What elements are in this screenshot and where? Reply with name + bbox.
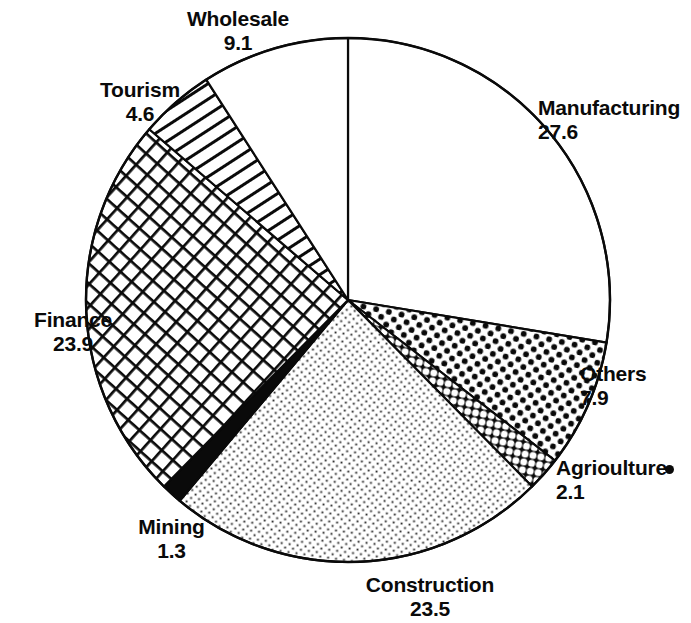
- slice-label-finance-name: Finance: [0, 308, 148, 332]
- slice-label-construction-value: 23.5: [330, 597, 530, 621]
- slice-label-finance-value: 23.9: [0, 332, 148, 356]
- slice-label-wholesale-value: 9.1: [143, 31, 333, 55]
- slice-label-manufacturing-name: Manufacturing: [538, 96, 691, 120]
- slice-label-others-name: Others: [580, 362, 691, 386]
- pie-chart: Wholesale 9.1 Tourism 4.6 Finance 23.9 M…: [0, 0, 691, 623]
- slice-label-wholesale: Wholesale 9.1: [143, 7, 333, 54]
- slice-label-construction: Construction 23.5: [330, 573, 530, 620]
- slice-label-tourism-value: 4.6: [55, 102, 225, 126]
- pie-slice-manufacturing: [348, 38, 610, 343]
- scan-ink-blot-icon: [665, 465, 674, 474]
- slice-label-wholesale-name: Wholesale: [143, 7, 333, 31]
- slice-label-finance: Finance 23.9: [0, 308, 148, 355]
- slice-label-tourism-name: Tourism: [55, 78, 225, 102]
- slice-label-others: Others 7.9: [580, 362, 691, 409]
- slice-label-mining-value: 1.3: [94, 539, 249, 563]
- slice-label-agriculture-value: 2.1: [556, 480, 691, 504]
- slice-label-mining-name: Mining: [94, 515, 249, 539]
- slice-label-mining: Mining 1.3: [94, 515, 249, 562]
- slice-label-construction-name: Construction: [330, 573, 530, 597]
- slice-label-agriculture-name: Agrioulture: [556, 456, 691, 480]
- slice-label-manufacturing-value: 27.6: [538, 120, 691, 144]
- slice-label-others-value: 7.9: [580, 386, 691, 410]
- slice-label-tourism: Tourism 4.6: [55, 78, 225, 125]
- slice-label-agriculture: Agrioulture 2.1: [556, 456, 691, 503]
- slice-label-manufacturing: Manufacturing 27.6: [538, 96, 691, 143]
